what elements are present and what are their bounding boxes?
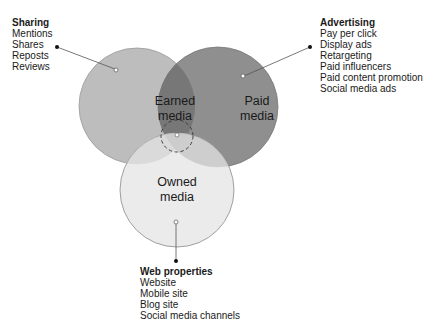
paid-callout-item: Pay per click <box>320 28 423 39</box>
owned-anchor-dot-icon <box>174 259 178 263</box>
paid-media-label: Paid media <box>230 94 284 124</box>
owned-callout-title: Web properties <box>140 266 240 277</box>
paid-callout-item: Retargeting <box>320 50 423 61</box>
paid-callout-item: Paid influencers <box>320 61 423 72</box>
paid-callout-item: Paid content promotion <box>320 72 423 83</box>
earned-anchor-dot-icon <box>55 45 59 49</box>
earned-callout: Sharing Mentions Shares Reposts Reviews <box>12 17 53 72</box>
earned-callout-item: Shares <box>12 39 53 50</box>
owned-callout-item: Mobile site <box>140 288 240 299</box>
owned-hollow-dot-icon <box>174 220 178 224</box>
earned-hollow-dot-icon <box>114 68 118 72</box>
owned-callout: Web properties Website Mobile site Blog … <box>140 266 240 321</box>
paid-anchor-dot-icon <box>308 45 312 49</box>
owned-callout-item: Website <box>140 277 240 288</box>
paid-callout: Advertising Pay per click Display ads Re… <box>320 17 423 94</box>
earned-callout-title: Sharing <box>12 17 53 28</box>
owned-callout-item: Blog site <box>140 299 240 310</box>
owned-callout-item: Social media channels <box>140 310 240 321</box>
paid-callout-item: Social media ads <box>320 83 423 94</box>
paid-callout-item: Display ads <box>320 39 423 50</box>
center-dot-icon <box>175 133 179 137</box>
earned-callout-item: Mentions <box>12 28 53 39</box>
paid-hollow-dot-icon <box>241 74 245 78</box>
earned-callout-item: Reviews <box>12 61 53 72</box>
owned-media-label: Owned media <box>142 175 212 205</box>
earned-callout-item: Reposts <box>12 50 53 61</box>
paid-callout-title: Advertising <box>320 17 423 28</box>
earned-media-label: Earned media <box>143 94 207 124</box>
